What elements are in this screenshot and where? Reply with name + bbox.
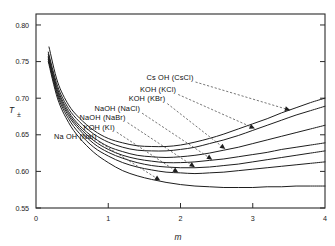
x-axis-ticks: 01234 — [34, 203, 327, 223]
series-label: NaOH (NaCl) — [94, 104, 140, 113]
y-tick-label: 0.75 — [15, 57, 29, 66]
leader-arrowhead — [206, 155, 212, 160]
series-label: KOH (KBr) — [129, 94, 166, 103]
y-tick-label: 0.65 — [15, 130, 29, 139]
curve-koh-kbr — [48, 54, 325, 157]
x-tick-label: 4 — [323, 214, 327, 223]
y-tick-label: 0.55 — [15, 204, 29, 213]
x-tick-label: 2 — [179, 214, 183, 223]
plot-border — [36, 14, 325, 208]
y-tick-label: 0.80 — [15, 21, 29, 30]
y-tick-label: 0.60 — [15, 167, 29, 176]
series-label: KOH (KI) — [84, 123, 115, 132]
leader-arrowhead — [220, 144, 226, 149]
activity-coefficient-line-chart: 0.550.600.650.700.750.80 01234 Cs OH (Cs… — [0, 0, 335, 246]
leader-line — [196, 82, 286, 109]
series-label: KOH (KCl) — [140, 85, 176, 94]
y-tick-label: 0.70 — [15, 94, 29, 103]
y-axis-title: T — [9, 105, 15, 115]
y-axis-ticks: 0.550.600.650.700.750.80 — [15, 21, 325, 213]
leader-arrowhead — [154, 176, 160, 181]
x-axis-title: m — [175, 232, 182, 242]
leader-line — [128, 123, 191, 165]
series-label: Cs OH (CsCl) — [147, 73, 194, 82]
x-tick-label: 0 — [34, 214, 38, 223]
leader-line — [178, 94, 250, 126]
x-tick-label: 1 — [106, 214, 110, 223]
leader-arrowhead — [172, 167, 178, 172]
series-label: Na OH (NaI) — [54, 132, 97, 141]
plot-frame — [36, 14, 325, 208]
y-axis-subscript: ± — [17, 111, 21, 118]
series-label: NaOH (NaBr) — [80, 113, 126, 122]
series-label-group: Cs OH (CsCl)KOH (KCl)KOH (KBr)NaOH (NaCl… — [54, 73, 194, 142]
leader-line-group — [99, 82, 291, 181]
leader-arrowhead — [189, 162, 195, 167]
chart-figure: 0.550.600.650.700.750.80 01234 Cs OH (Cs… — [0, 0, 335, 246]
x-tick-label: 3 — [251, 214, 255, 223]
